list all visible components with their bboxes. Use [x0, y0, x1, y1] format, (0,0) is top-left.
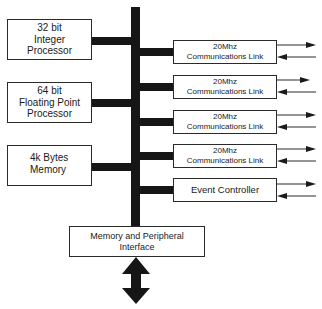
incoming-arrow-icon [277, 54, 316, 60]
incoming-arrow-icon [277, 158, 316, 164]
incoming-arrow-icon [277, 89, 316, 95]
outgoing-arrow-icon [277, 146, 316, 152]
bidirectional-arrow-icon [122, 257, 150, 304]
outgoing-arrow-icon [277, 42, 316, 48]
outgoing-arrow-icon [277, 112, 316, 118]
outgoing-arrow-icon [277, 181, 316, 187]
outgoing-arrow-icon [277, 77, 310, 83]
incoming-arrow-icon [277, 124, 316, 130]
signal-arrows [0, 0, 322, 309]
incoming-arrow-icon [277, 193, 316, 199]
